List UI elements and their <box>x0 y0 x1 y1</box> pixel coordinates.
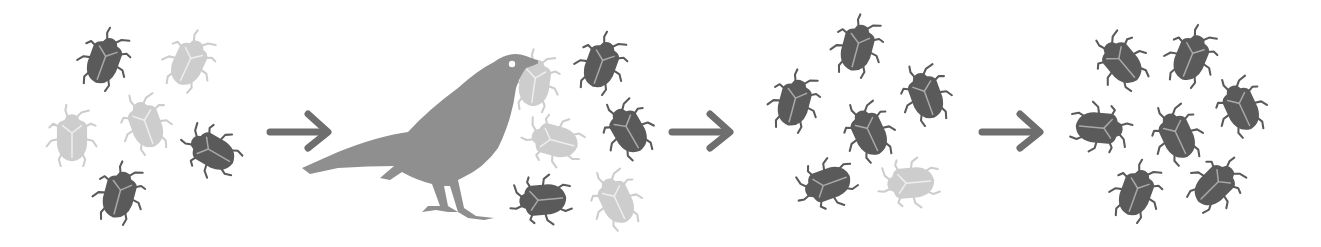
light-bug-icon <box>576 157 654 239</box>
right-arrow-icon <box>266 108 336 152</box>
selection-diagram <box>0 0 1321 247</box>
dark-bug-icon <box>68 18 143 97</box>
dark-bug-icon <box>888 53 963 132</box>
light-bug-icon <box>44 103 100 167</box>
dark-bug-icon <box>823 7 894 83</box>
light-bug-icon <box>874 152 943 213</box>
dark-bug-icon <box>760 62 831 138</box>
dark-bug-icon <box>168 110 251 190</box>
right-arrow-icon <box>668 108 738 152</box>
right-arrow-icon <box>978 108 1048 152</box>
dark-bug-icon <box>1068 97 1137 158</box>
dark-bug-icon <box>1078 17 1162 102</box>
